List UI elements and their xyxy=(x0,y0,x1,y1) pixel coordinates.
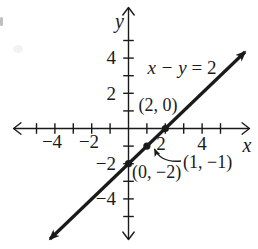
y-tick-label-2: 2 xyxy=(107,83,117,104)
point-label-2-0: (2, 0) xyxy=(139,95,178,116)
y-tick-label-4: 4 xyxy=(107,47,117,68)
x-tick-label-neg2: −2 xyxy=(79,131,99,152)
coordinate-plane: −4 −2 2 4 x 4 2 − xyxy=(0,0,258,249)
point-1-neg1 xyxy=(143,143,150,150)
x-tick-label-neg4: −4 xyxy=(42,131,63,152)
point-label-1-neg1: (1, −1) xyxy=(183,152,232,173)
point-2-0 xyxy=(162,125,169,132)
equation-label: x − y= 2 xyxy=(146,57,216,78)
line-graph-figure: −4 −2 2 4 x 4 2 − xyxy=(0,0,258,249)
x-axis-label: x xyxy=(242,134,252,156)
point-label-0-neg2: (0, −2) xyxy=(132,162,181,183)
scan-artifact xyxy=(0,17,23,53)
y-tick-label-neg2: −2 xyxy=(96,153,116,174)
y-axis: 4 2 −2 −4 y xyxy=(96,8,134,240)
x-tick-label-4: 4 xyxy=(197,133,207,154)
y-axis-label: y xyxy=(113,10,124,33)
